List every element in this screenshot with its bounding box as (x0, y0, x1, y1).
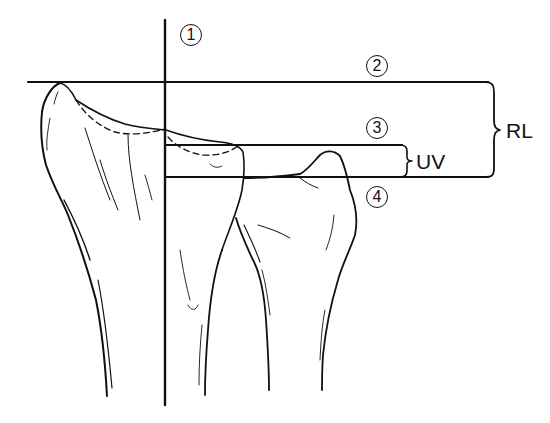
marker-4: 4 (366, 186, 388, 208)
ulna-bone (236, 151, 356, 390)
marker-1: 1 (180, 24, 202, 46)
marker-3: 3 (366, 117, 388, 139)
rl-brace (486, 82, 500, 177)
bone-drawing (0, 0, 550, 423)
diagram-canvas: 1 2 3 4 RL UV (0, 0, 550, 423)
uv-brace (400, 145, 412, 177)
uv-label: UV (416, 151, 445, 172)
radius-bone (41, 83, 244, 396)
rl-label: RL (506, 120, 533, 141)
marker-2: 2 (366, 55, 388, 77)
